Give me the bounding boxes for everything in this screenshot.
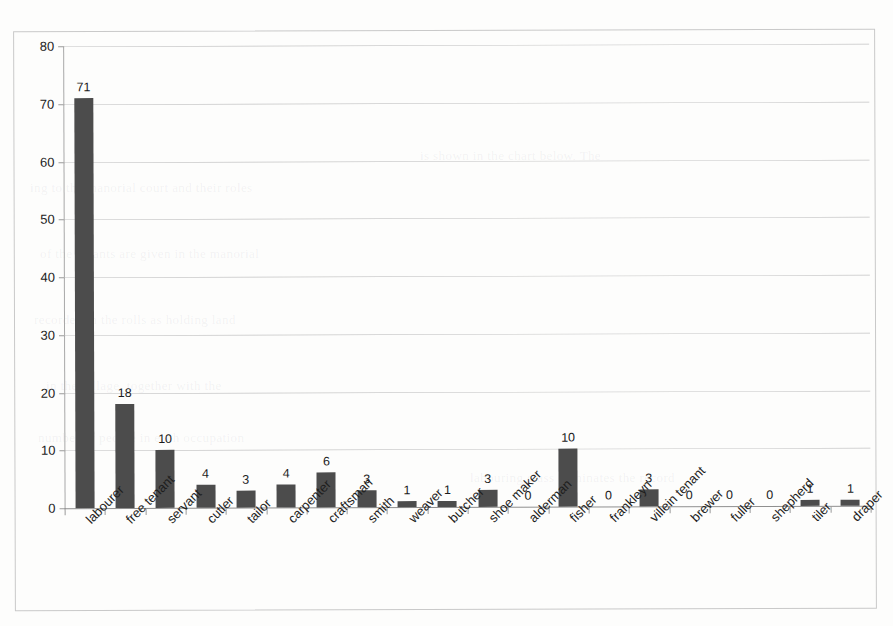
bar-value-label: 71	[76, 80, 90, 94]
bar-value-label: 0	[605, 488, 612, 502]
bar-slot: 0	[708, 44, 750, 506]
bar-slot: 1	[426, 45, 468, 507]
bar-slot: 3	[224, 46, 266, 508]
x-axis-tick-mark	[65, 509, 66, 515]
bar-value-label: 18	[118, 386, 132, 400]
bar-slot: 6	[305, 45, 347, 507]
y-axis: 01020304050607080	[14, 30, 874, 33]
bar-slot: 0	[587, 44, 629, 506]
y-axis-tick-label: 0	[24, 501, 56, 516]
bar-value-label: 10	[561, 431, 575, 445]
bar-slot: 3	[345, 45, 387, 507]
bar-slot: 1	[829, 44, 871, 506]
bar-slot: 3	[627, 44, 669, 506]
y-axis-tick-label: 50	[23, 212, 55, 227]
bar-value-label: 6	[323, 455, 330, 469]
bar-slot: 0	[668, 44, 710, 506]
bar-value-label: 0	[726, 488, 733, 502]
bar-value-label: 0	[766, 488, 773, 502]
bar-value-label: 1	[847, 482, 854, 496]
bar-slot: 18	[103, 46, 145, 508]
bar-value-label: 10	[158, 432, 172, 446]
bar-slot: 4	[265, 45, 307, 507]
y-axis-tick-label: 20	[23, 385, 55, 400]
bar-slot: 10	[144, 46, 186, 508]
bar-slot: 3	[466, 45, 508, 507]
bar-slot: 0	[748, 44, 790, 506]
y-axis-tick-label: 30	[23, 327, 55, 342]
y-axis-tick-label: 70	[22, 96, 54, 111]
bar[interactable]: 71	[74, 98, 94, 508]
y-axis-tick-label: 80	[22, 39, 54, 54]
bar-value-label: 4	[283, 466, 290, 480]
bar-slot: 1	[386, 45, 428, 507]
y-axis-tick-label: 60	[22, 154, 54, 169]
bar-value-label: 3	[242, 472, 249, 486]
plot-area: 711810434631130100300011	[63, 44, 870, 509]
bar-series: 711810434631130100300011	[63, 44, 869, 47]
bar-slot: 10	[547, 45, 589, 507]
bar-value-label: 3	[484, 472, 491, 486]
x-axis-labels: labourerfree tenantservantcutlertailorca…	[65, 514, 871, 612]
y-axis-tick-label: 40	[23, 270, 55, 285]
bar-slot: 4	[184, 46, 226, 508]
bar-value-label: 1	[404, 483, 411, 497]
bar-slot: 0	[506, 45, 548, 507]
bar-slot: 71	[63, 46, 105, 508]
bar-slot: 1	[789, 44, 831, 506]
y-axis-tick-label: 10	[23, 443, 55, 458]
scanned-page-background: ing to the manorial court and their role…	[0, 0, 893, 626]
bar[interactable]: 4	[277, 484, 296, 507]
bar-value-label: 4	[202, 467, 209, 481]
chart-container: 01020304050607080 7118104346311301003000…	[13, 29, 877, 612]
